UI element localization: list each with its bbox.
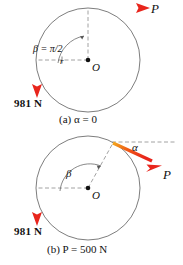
force-p-arrowhead-b <box>146 165 162 173</box>
center-label-b: O <box>92 190 100 201</box>
weight-label-b: 981 N <box>14 226 42 237</box>
panel-a-geometry <box>32 3 150 112</box>
caption-a: (a) α = 0 <box>59 114 97 125</box>
force-p-label-b: P <box>163 168 171 181</box>
panel-b-geometry <box>32 136 176 240</box>
beta-equation-label-a: β = π/2 <box>33 44 63 54</box>
center-point-a <box>86 58 91 63</box>
caption-b: (b) P = 500 N <box>47 244 107 255</box>
force-p-label-a: P <box>151 2 159 15</box>
weight-label-a: 981 N <box>14 98 42 109</box>
center-label-a: O <box>92 62 100 73</box>
radius-label-a: r <box>60 57 64 66</box>
beta-arc-arrowhead-a <box>80 36 84 40</box>
beta-label-b: β <box>66 168 71 179</box>
figure-root: P β = π/2 r O 981 N (a) α = 0 α P β O 98… <box>0 0 183 265</box>
alpha-label-b: α <box>132 142 138 153</box>
center-point-b <box>86 186 91 191</box>
